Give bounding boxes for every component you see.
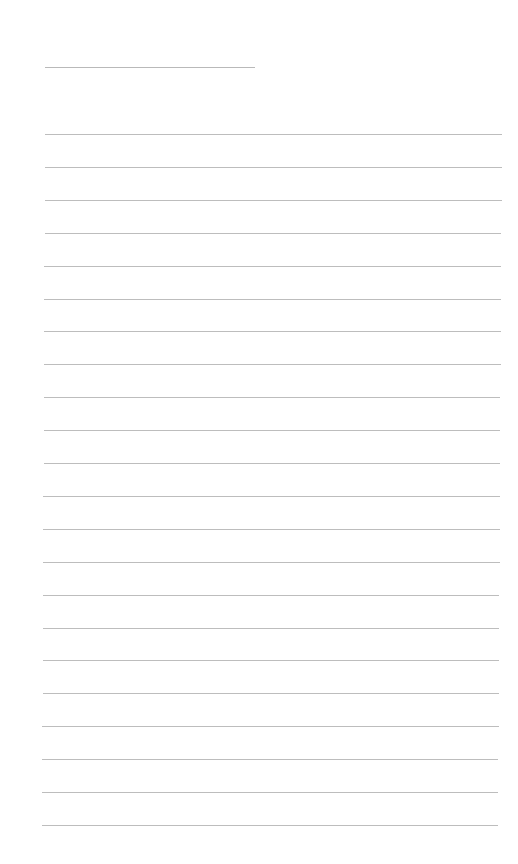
ruled-line: [45, 233, 502, 234]
ruled-line: [43, 562, 499, 563]
ruled-line: [44, 463, 501, 464]
ruled-line: [45, 134, 502, 135]
ruled-line: [44, 331, 501, 332]
ruled-line: [44, 397, 501, 398]
ruled-line: [43, 693, 499, 694]
ruled-line: [42, 726, 498, 727]
ruled-line: [45, 167, 502, 168]
ruled-line: [44, 266, 501, 267]
ruled-line: [45, 200, 502, 201]
ruled-line: [43, 628, 499, 629]
ruled-line: [43, 529, 499, 530]
ruled-line: [44, 299, 501, 300]
ruled-line: [43, 496, 499, 497]
ruled-line: [42, 792, 498, 793]
ruled-line: [44, 364, 501, 365]
ruled-line: [43, 660, 499, 661]
ruled-line: [42, 759, 498, 760]
ruled-line: [44, 430, 501, 431]
ruled-line: [43, 595, 499, 596]
ruled-lines: [0, 0, 518, 864]
ruled-line: [42, 825, 498, 826]
